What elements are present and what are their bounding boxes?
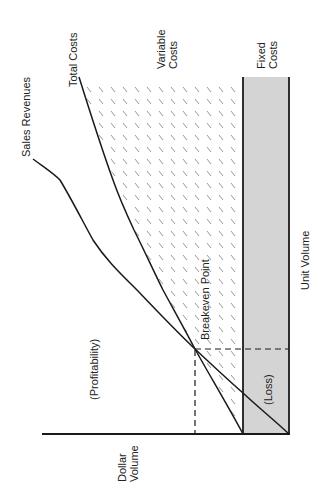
svg-text:Costs: Costs bbox=[167, 40, 179, 69]
svg-text:Dollar: Dollar bbox=[116, 453, 128, 482]
total-costs-label: Total Costs bbox=[67, 32, 79, 87]
svg-text:Fixed: Fixed bbox=[255, 42, 267, 69]
profitability-label: (Profitability) bbox=[88, 339, 100, 400]
loss-label: (Loss) bbox=[262, 374, 274, 405]
svg-text:Costs: Costs bbox=[267, 40, 279, 69]
svg-text:Volume: Volume bbox=[128, 445, 140, 482]
variable-costs-label: Variable Costs bbox=[155, 29, 179, 69]
breakeven-point-label: Breakeven Point bbox=[199, 259, 211, 340]
dollar-volume-label: Dollar Volume bbox=[116, 445, 140, 482]
variable-costs-area bbox=[79, 80, 243, 434]
svg-text:Variable: Variable bbox=[155, 29, 167, 69]
sales-revenues-label: Sales Revenues bbox=[20, 76, 32, 157]
unit-volume-label: Unit Volume bbox=[299, 231, 311, 290]
breakeven-chart: Sales Revenues Total Costs Variable Cost… bbox=[0, 0, 314, 499]
fixed-costs-label: Fixed Costs bbox=[255, 40, 279, 69]
